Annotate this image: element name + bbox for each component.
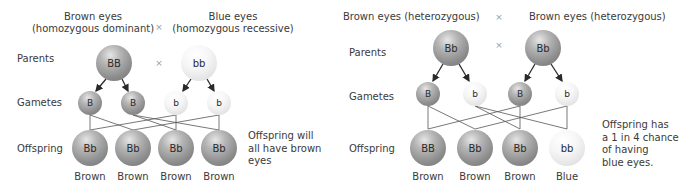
gamete-sphere: B <box>78 91 102 115</box>
phenotype-label: Brown <box>504 171 535 183</box>
offspring-sphere: bb <box>549 130 585 166</box>
gamete-sphere: b <box>164 91 188 115</box>
offspring-sphere: Bb <box>115 130 151 166</box>
cross-symbol: × <box>155 58 163 68</box>
arrow-icon <box>433 64 443 81</box>
offspring-sphere: BB <box>410 130 446 166</box>
row-label-gametes: Gametes <box>17 97 62 109</box>
offspring-sphere: Bb <box>502 130 538 166</box>
phenotype-label: Brown <box>117 171 148 183</box>
row-label-parents: Parents <box>349 47 386 59</box>
note-line: Offspring will <box>248 130 321 143</box>
row-label-parents: Parents <box>17 53 54 65</box>
phenotype-label: Brown <box>203 171 234 183</box>
note-line: all have brown <box>248 143 321 156</box>
note-line: a 1 in 4 chance <box>602 132 679 145</box>
cross-symbol: × <box>495 40 503 50</box>
arrow-icon <box>459 64 469 81</box>
arrow-icon <box>207 79 214 91</box>
row-label-offspring: Offspring <box>349 143 395 155</box>
phenotype-label: Brown <box>412 171 443 183</box>
gamete-sphere: B <box>508 82 532 106</box>
parent1-header: Brown eyes (heterozygous) <box>343 11 480 23</box>
offspring-sphere: Bb <box>72 130 108 166</box>
offspring-note: Offspring has a 1 in 4 chance of having … <box>602 119 679 169</box>
parent-sphere: BB <box>96 45 132 81</box>
parent-sphere: Bb <box>525 30 561 66</box>
cross-symbol: × <box>155 22 163 32</box>
parent2-header: Brown eyes (heterozygous) <box>529 11 666 23</box>
note-line: blue eyes. <box>602 157 679 170</box>
header-line: (homozygous recessive) <box>172 23 293 35</box>
arrow-icon <box>122 79 128 91</box>
parent-sphere: Bb <box>433 30 469 66</box>
offspring-sphere: Bb <box>201 130 237 166</box>
gamete-sphere: b <box>555 82 579 106</box>
phenotype-label: Brown <box>74 171 105 183</box>
gamete-sphere: b <box>463 82 487 106</box>
parent1-header: Brown eyes (homozygous dominant) <box>32 11 154 35</box>
row-label-gametes: Gametes <box>349 91 394 103</box>
gamete-sphere: B <box>121 91 145 115</box>
note-line: eyes <box>248 155 321 168</box>
note-line: Offspring has <box>602 119 679 132</box>
header-line: (homozygous dominant) <box>32 23 154 35</box>
offspring-sphere: Bb <box>158 130 194 166</box>
phenotype-label: Brown <box>459 171 490 183</box>
offspring-sphere: Bb <box>457 130 493 166</box>
phenotype-label: Brown <box>160 171 191 183</box>
gamete-sphere: B <box>416 82 440 106</box>
offspring-note: Offspring will all have brown eyes <box>248 130 321 168</box>
phenotype-label: Blue <box>556 171 578 183</box>
header-line: Blue eyes <box>172 11 293 23</box>
gamete-sphere: b <box>207 91 231 115</box>
arrow-icon <box>183 79 191 91</box>
arrow-icon <box>551 64 562 81</box>
cross-symbol: × <box>495 12 503 22</box>
parent2-header: Blue eyes (homozygous recessive) <box>172 11 293 35</box>
arrow-icon <box>96 79 106 91</box>
row-label-offspring: Offspring <box>17 143 63 155</box>
header-line: Brown eyes <box>32 11 154 23</box>
note-line: of having <box>602 144 679 157</box>
parent-sphere: bb <box>181 45 217 81</box>
arrow-icon <box>525 64 535 81</box>
